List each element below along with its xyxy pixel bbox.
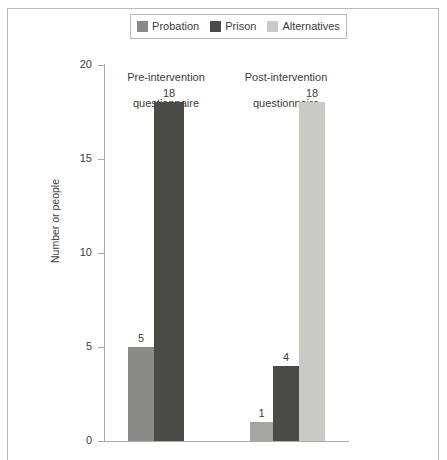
bar-value-post-probation: 1 — [248, 408, 275, 419]
bar-post-prison — [273, 366, 299, 441]
bar-value-post-prison: 4 — [272, 352, 300, 363]
bar-value-pre-prison: 18 — [154, 88, 184, 99]
y-tick-label-20: 20 — [66, 59, 92, 70]
group-label-post-line1: Post-intervention — [245, 71, 328, 83]
bar-post-probation — [250, 422, 273, 441]
y-tick-mark-0 — [98, 441, 105, 442]
bar-post-alternatives — [299, 102, 325, 441]
bar-pre-prison — [154, 102, 184, 441]
y-tick-mark-15 — [98, 159, 105, 160]
y-axis-title: Number or people — [49, 161, 61, 281]
group-label-pre-line1: Pre-intervention — [127, 71, 205, 83]
y-tick-mark-10 — [98, 253, 105, 254]
y-tick-label-10: 10 — [66, 247, 92, 258]
bar-value-pre-probation: 5 — [126, 333, 156, 344]
y-tick-label-15: 15 — [66, 153, 92, 164]
x-axis-line — [104, 441, 349, 442]
group-label-post-intervention: Post-intervention questionnaire — [230, 58, 342, 110]
y-tick-mark-5 — [98, 347, 105, 348]
y-tick-label-5: 5 — [66, 341, 92, 352]
bar-value-post-alternatives: 18 — [298, 88, 326, 99]
bar-pre-probation — [128, 347, 154, 441]
y-tick-mark-20 — [98, 65, 105, 66]
y-tick-label-0: 0 — [66, 435, 92, 446]
